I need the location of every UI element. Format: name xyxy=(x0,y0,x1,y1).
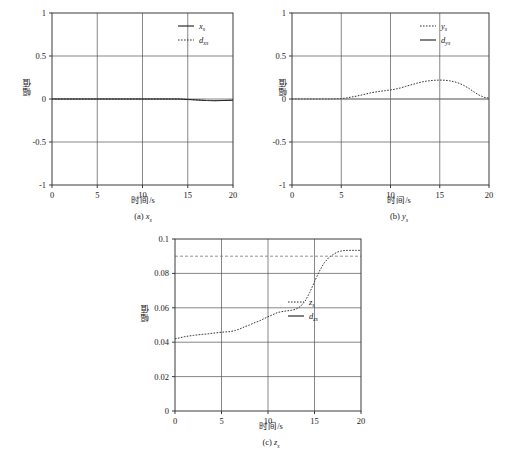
svg-text:xs: xs xyxy=(198,21,206,32)
panel-b-xlabel: 时间/s xyxy=(349,196,449,205)
panel-b: 05101520-1-0.500.51ysdys 幅值 时间/s (b) ys xyxy=(256,0,512,230)
svg-text:0: 0 xyxy=(42,94,46,104)
panel-b-caption-sub: s xyxy=(406,217,408,223)
svg-text:0.02: 0.02 xyxy=(154,372,169,382)
panel-c-caption-sub: s xyxy=(277,443,279,449)
svg-text:0.5: 0.5 xyxy=(35,51,46,61)
svg-text:0: 0 xyxy=(165,406,169,416)
panel-b-caption-prefix: (b) xyxy=(390,211,402,221)
svg-text:dys: dys xyxy=(441,35,451,46)
figure-root: 05101520-1-0.500.51xsdxs 幅值 时间/s (a) xs … xyxy=(0,0,512,459)
panel-a: 05101520-1-0.500.51xsdxs 幅值 时间/s (a) xs xyxy=(0,0,256,230)
svg-text:1: 1 xyxy=(282,8,286,18)
svg-text:0.08: 0.08 xyxy=(154,268,169,278)
svg-text:5: 5 xyxy=(339,190,343,200)
svg-text:-1: -1 xyxy=(279,180,286,190)
svg-text:-0.5: -0.5 xyxy=(33,137,46,147)
svg-text:0.04: 0.04 xyxy=(154,337,170,347)
svg-text:0: 0 xyxy=(173,416,177,426)
panel-a-caption-sub: s xyxy=(150,217,152,223)
panel-b-ylabel: 幅值 xyxy=(280,78,289,96)
svg-text:dxs: dxs xyxy=(199,35,209,46)
svg-text:0.06: 0.06 xyxy=(154,303,169,313)
panel-c-caption: (c) zs xyxy=(221,438,321,449)
svg-text:20: 20 xyxy=(357,416,366,426)
svg-text:-0.5: -0.5 xyxy=(273,137,286,147)
panel-c-caption-prefix: (c) xyxy=(262,437,274,447)
svg-text:0: 0 xyxy=(290,190,294,200)
panel-a-plot: 05101520-1-0.500.51xsdxs xyxy=(0,0,256,200)
panel-b-plot: 05101520-1-0.500.51ysdys xyxy=(256,0,512,200)
svg-text:dzs: dzs xyxy=(309,311,319,322)
svg-text:0: 0 xyxy=(50,190,54,200)
svg-text:0.1: 0.1 xyxy=(158,234,169,244)
svg-text:20: 20 xyxy=(229,190,238,200)
svg-text:1: 1 xyxy=(42,8,46,18)
panel-c-plot: 0510152000.020.040.060.080.1zsdzs xyxy=(128,226,384,426)
svg-text:20: 20 xyxy=(485,190,494,200)
panel-a-ylabel: 幅值 xyxy=(24,78,33,96)
panel-a-caption: (a) xs xyxy=(93,212,193,223)
panel-a-xlabel: 时间/s xyxy=(93,196,193,205)
panel-a-caption-prefix: (a) xyxy=(134,211,146,221)
svg-text:ys: ys xyxy=(440,21,448,32)
svg-text:0.5: 0.5 xyxy=(275,51,286,61)
panel-b-caption: (b) ys xyxy=(349,212,449,223)
svg-text:-1: -1 xyxy=(39,180,46,190)
panel-c: 0510152000.020.040.060.080.1zsdzs 幅值 时间/… xyxy=(128,226,384,459)
panel-c-ylabel: 幅值 xyxy=(142,304,151,322)
panel-c-xlabel: 时间/s xyxy=(221,422,321,431)
